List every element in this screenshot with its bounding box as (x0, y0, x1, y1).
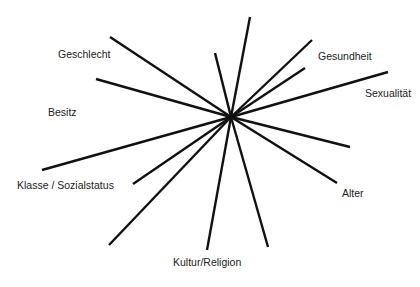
label-alter: Alter (342, 187, 364, 199)
spoke-line (231, 117, 350, 147)
intersectionality-diagram (0, 0, 420, 287)
label-gesundheit: Gesundheit (318, 50, 372, 62)
spoke-line (42, 117, 231, 170)
spoke-line (110, 37, 231, 117)
spoke-line (231, 68, 305, 117)
label-kultur-religion: Kultur/Religion (173, 256, 241, 268)
spoke-line (109, 117, 231, 245)
label-besitz: Besitz (48, 106, 77, 118)
label-sexualitaet: Sexualität (365, 87, 411, 99)
spoke-line (133, 117, 231, 184)
label-klasse-sozialstatus: Klasse / Sozialstatus (17, 179, 114, 191)
label-geschlecht: Geschlecht (58, 48, 111, 60)
spoke-line (96, 79, 231, 117)
